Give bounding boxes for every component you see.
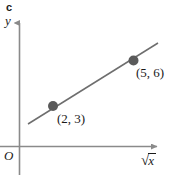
point-label-5-6: (5, 6) xyxy=(136,66,164,80)
point-label-2-3: (2, 3) xyxy=(57,112,85,126)
x-axis-label-radicand: x xyxy=(148,153,156,168)
data-point-2-3 xyxy=(48,101,58,111)
plot-canvas xyxy=(0,0,171,175)
best-fit-line xyxy=(28,43,158,124)
y-axis-label: y xyxy=(5,14,11,28)
graph-figure: c y O √x (2, 3) (5, 6) xyxy=(0,0,171,175)
origin-label: O xyxy=(4,149,13,163)
x-axis-label-radical-group: √x xyxy=(141,152,156,168)
x-axis-label: √x xyxy=(141,152,156,168)
data-point-5-6 xyxy=(129,56,139,66)
